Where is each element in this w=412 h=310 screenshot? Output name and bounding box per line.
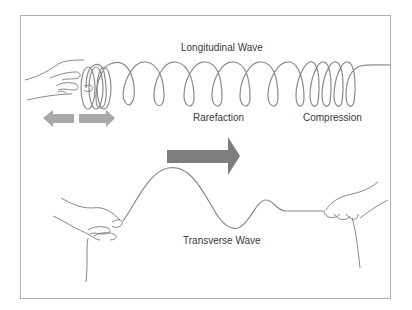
compression-label: Compression	[303, 112, 362, 124]
push-pull-arrows	[43, 110, 115, 127]
transverse-wave-label: Transverse Wave	[183, 235, 261, 247]
longitudinal-wave-label: Longitudinal Wave	[181, 42, 263, 54]
left-hand-spring	[25, 60, 93, 100]
arrow-left-icon	[43, 110, 74, 127]
arrow-right-icon	[79, 110, 115, 127]
rarefaction-label: Rarefaction	[193, 112, 244, 124]
right-hand-rope	[324, 182, 388, 268]
transverse-rope	[123, 168, 325, 229]
left-hand-rope	[53, 198, 122, 282]
spring-coil	[81, 62, 391, 109]
propagation-arrow-icon	[167, 137, 240, 175]
wave-diagram: Longitudinal Wave Rarefaction Compressio…	[0, 0, 412, 310]
